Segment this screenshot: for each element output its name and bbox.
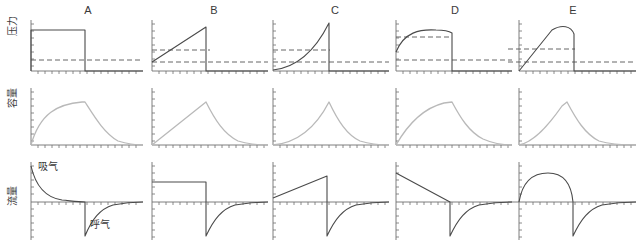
flow-wave-b [152,182,268,236]
axis-volume-d [396,88,512,145]
volume-panel-a [31,88,143,148]
expiration-label-a: 呼气 [90,218,110,230]
panel-label-d: D [451,4,459,16]
ticks-volume-a [31,92,136,148]
ticks-volume-c [273,92,385,148]
pressure-panel-e [508,20,636,74]
pressure-wave-c [273,23,389,71]
flow-wave-e [519,173,636,236]
panel-label-b: B [210,4,217,16]
axis-volume-a [31,88,143,145]
volume-wave-d [396,102,512,145]
volume-wave-a [31,102,143,145]
flow-panel-b [152,162,268,240]
axis-pressure-e [519,20,636,71]
pressure-panel-b [152,20,268,74]
ticks-volume-b [152,92,264,148]
axis-volume-b [152,88,268,145]
flow-panel-c [273,162,389,240]
panel-label-a: A [84,4,92,16]
volume-wave-e [519,102,636,145]
ticks-flow-e [519,166,631,237]
axis-pressure-b [152,20,268,71]
volume-panel-d [396,88,512,148]
flow-panel-e [508,162,636,240]
volume-wave-b [152,102,268,145]
ticks-volume-e [519,92,631,148]
volume-panel-b [152,88,268,148]
panel-label-e: E [569,4,576,16]
flow-wave-c [273,176,389,236]
pressure-wave-d [396,30,512,71]
ticks-flow-b [152,166,264,237]
ventilator-waveform-figure: A B C D E 压力 容量 流量 [0,0,639,247]
inspiration-label-a: 吸气 [38,160,58,172]
row-label-pressure: 压力 [6,16,18,36]
volume-panel-e [519,88,636,148]
axis-pressure-d [396,20,512,71]
pressure-wave-a [31,30,143,71]
pressure-panel-d [396,20,512,74]
pressure-wave-e [519,27,636,71]
axis-pressure-a [31,20,143,71]
panel-label-c: C [331,4,339,16]
flow-wave-a [31,166,143,236]
volume-wave-c [273,102,389,145]
flow-panel-d [396,162,512,240]
pressure-panel-c [273,20,389,74]
ticks-pressure-b [152,24,264,74]
volume-panel-c [273,88,389,148]
axis-volume-c [273,88,389,145]
ticks-flow-c [273,166,385,237]
row-label-flow: 流量 [6,186,18,206]
ticks-volume-d [396,92,508,148]
row-label-volume: 容量 [6,88,18,108]
ticks-pressure-a [31,24,136,74]
flow-wave-d [396,173,512,236]
flow-panel-a: 吸气 呼气 [31,160,143,240]
axis-pressure-c [273,20,389,71]
pressure-panel-a [31,20,143,74]
ticks-flow-d [396,166,508,237]
pressure-wave-b [152,27,268,71]
waveform-svg: A B C D E 压力 容量 流量 [0,0,639,247]
